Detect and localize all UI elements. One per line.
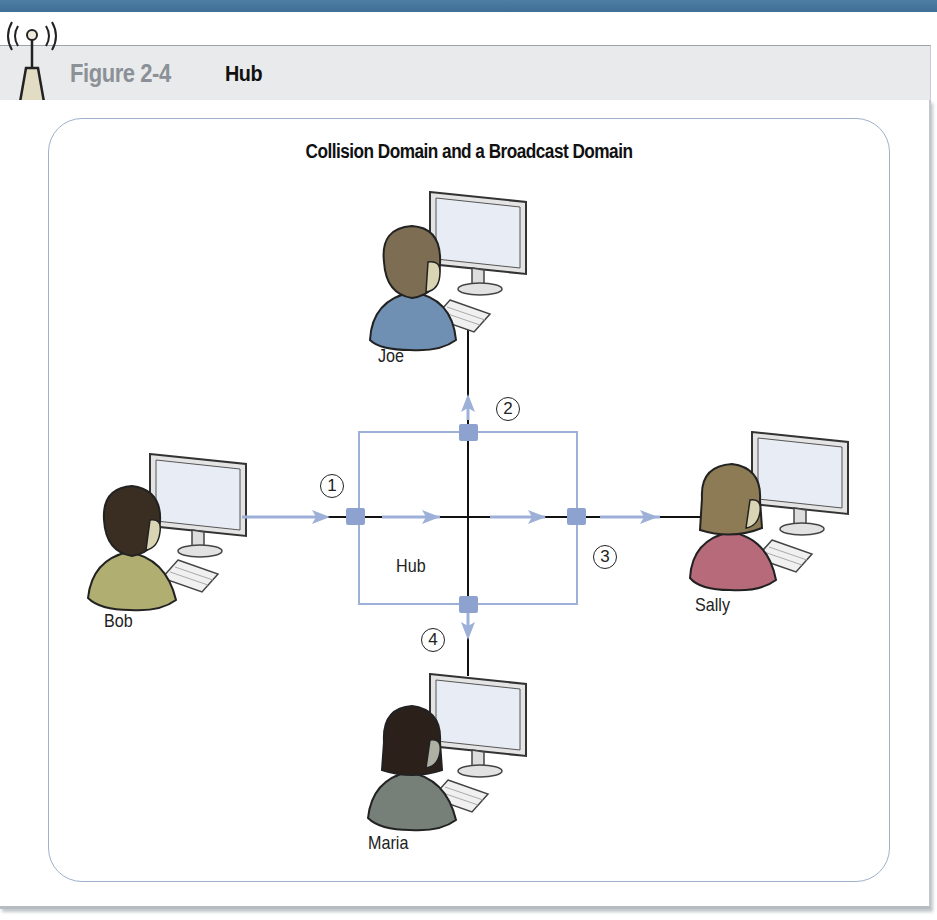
bob-monitor-icon xyxy=(150,454,246,557)
host-sally xyxy=(660,432,848,590)
step-1-badge: 1 xyxy=(320,474,344,498)
port-2 xyxy=(459,424,478,441)
host-label-bob: Bob xyxy=(104,610,133,632)
bob-body-icon xyxy=(88,552,176,610)
port-4 xyxy=(459,596,478,613)
host-label-maria: Maria xyxy=(368,832,408,854)
joe-monitor-icon xyxy=(430,192,526,295)
sally-body-icon xyxy=(690,532,776,590)
hub-label: Hub xyxy=(396,555,426,577)
step-4-badge: 4 xyxy=(421,628,445,652)
host-label-sally: Sally xyxy=(695,594,730,616)
port-3 xyxy=(567,508,586,525)
sally-monitor-icon xyxy=(752,432,848,535)
host-label-joe: Joe xyxy=(378,345,404,367)
maria-monitor-icon xyxy=(430,674,526,777)
port-1 xyxy=(346,508,365,525)
maria-body-icon xyxy=(368,772,456,830)
step-3-badge: 3 xyxy=(593,545,617,569)
step-2-badge: 2 xyxy=(496,397,520,421)
joe-body-icon xyxy=(370,292,456,350)
network-diagram xyxy=(0,0,937,920)
host-bob xyxy=(88,454,290,610)
host-maria xyxy=(368,640,526,830)
